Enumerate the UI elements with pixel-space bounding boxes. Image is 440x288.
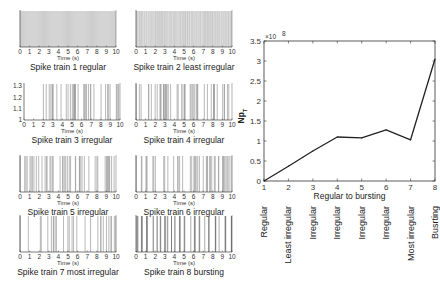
raster-panel-8: 012345678910Time (s)Spike train 8 bursti… — [134, 215, 236, 277]
x-tick-label: 2 — [153, 193, 157, 200]
x-tick-label: 0 — [134, 121, 138, 128]
raster-panel-2: 012345678910Time (s)Spike train 2 least … — [133, 10, 236, 72]
y-tick-label: 1.3 — [13, 82, 22, 89]
y-tick-label: 1.1 — [13, 105, 22, 112]
panel-caption: Spike train 3 irregular — [32, 135, 113, 145]
y-tick-label: 3.5 — [250, 37, 262, 46]
y-tick-label: 1.2 — [13, 94, 22, 101]
x-tick-label: 10 — [228, 253, 236, 260]
x-tick-label: 5 — [182, 121, 186, 128]
data-point — [410, 139, 411, 140]
category-label: Least irregular — [283, 206, 293, 264]
x-tick-label: 9 — [221, 121, 225, 128]
x-tick-label: 0 — [18, 193, 22, 200]
x-tick-label: 2 — [37, 193, 41, 200]
x-tick-label: 5 — [182, 48, 186, 55]
x-tick-label: 8 — [211, 253, 215, 260]
panel-caption: Spike train 7 most irregular — [17, 267, 119, 277]
x-tick-label: 6 — [76, 48, 80, 55]
x-axis-title: Time (s) — [61, 128, 83, 134]
x-tick-label: 2 — [37, 253, 41, 260]
x-tick-label: 1 — [262, 183, 267, 192]
y-tick-label: 2 — [257, 97, 262, 106]
x-tick-label: 3 — [51, 121, 55, 128]
x-tick-label: 9 — [109, 121, 113, 128]
x-tick-label: 0 — [134, 253, 138, 260]
x-tick-label: 4 — [173, 193, 177, 200]
y-tick-label: 1.5 — [250, 117, 262, 126]
x-tick-label: 9 — [221, 253, 225, 260]
x-tick-label: 5 — [66, 193, 70, 200]
y-axis-title-subscript: T — [242, 108, 248, 112]
x-tick-label: 8 — [95, 48, 99, 55]
y-tick-label: 0.5 — [250, 157, 262, 166]
panel-caption: Spike train 1 regular — [30, 62, 106, 72]
x-tick-label: 8 — [95, 193, 99, 200]
category-label: Irregular — [332, 206, 342, 240]
x-tick-label: 10 — [112, 193, 120, 200]
x-tick-label: 3 — [163, 121, 167, 128]
x-tick-label: 8 — [99, 121, 103, 128]
x-tick-label: 6 — [76, 193, 80, 200]
spike-group — [137, 216, 232, 252]
x-tick-label: 5 — [70, 121, 74, 128]
x-tick-label: 2 — [286, 183, 291, 192]
x-axis-title: Regular to bursting — [314, 191, 386, 201]
x-tick-label: 1 — [28, 253, 32, 260]
x-tick-label: 7 — [201, 193, 205, 200]
x-axis-title: Time (s) — [173, 260, 195, 266]
x-tick-label: 1 — [144, 48, 148, 55]
x-tick-label: 8 — [211, 48, 215, 55]
x-tick-label: 10 — [228, 48, 236, 55]
spike-group — [136, 156, 232, 192]
x-axis-title: Time (s) — [173, 128, 195, 134]
x-tick-label: 4 — [173, 48, 177, 55]
x-tick-label: 3 — [163, 253, 167, 260]
panel-caption: Spike train 8 bursting — [144, 267, 224, 277]
y-tick-label: 1 — [257, 137, 262, 146]
x-tick-label: 3 — [47, 193, 51, 200]
x-tick-label: 8 — [211, 193, 215, 200]
x-tick-label: 8 — [95, 253, 99, 260]
x-tick-label: 2 — [41, 121, 45, 128]
x-tick-label: 4 — [173, 121, 177, 128]
y-axis-title: NpT — [236, 108, 248, 123]
raster-panel-3: 01234567891011.11.21.3Time (s)Spike trai… — [13, 82, 124, 145]
spike-group — [137, 11, 232, 47]
x-tick-label: 9 — [221, 193, 225, 200]
x-tick-label: 5 — [182, 253, 186, 260]
x-tick-label: 7 — [201, 121, 205, 128]
x-tick-label: 7 — [85, 253, 89, 260]
x-tick-label: 8 — [433, 183, 438, 192]
x-tick-label: 5 — [66, 48, 70, 55]
x-tick-label: 9 — [221, 48, 225, 55]
x-axis-title: Time (s) — [173, 200, 195, 206]
x-tick-label: 10 — [228, 193, 236, 200]
x-tick-label: 9 — [105, 253, 109, 260]
x-tick-label: 0 — [134, 193, 138, 200]
x-tick-label: 6 — [192, 193, 196, 200]
y-multiplier-exponent: 8 — [282, 30, 286, 37]
x-tick-label: 4 — [57, 48, 61, 55]
x-tick-label: 7 — [85, 193, 89, 200]
data-point — [361, 137, 362, 138]
x-tick-label: 7 — [408, 183, 413, 192]
line-chart: 00.511.522.533.512345678×108Regular to b… — [236, 30, 440, 264]
x-axis-title: Time (s) — [173, 55, 195, 61]
raster-panel-6: 012345678910Time (s)Spike train 6 irregu… — [134, 155, 236, 217]
x-tick-label: 3 — [47, 253, 51, 260]
data-point — [288, 166, 289, 167]
x-tick-label: 6 — [80, 121, 84, 128]
x-tick-label: 3 — [163, 193, 167, 200]
y-multiplier-label: ×10 — [265, 33, 276, 40]
y-axis-title-main: Np — [236, 112, 246, 123]
x-tick-label: 6 — [192, 253, 196, 260]
x-tick-label: 6 — [192, 48, 196, 55]
x-tick-label: 0 — [22, 121, 26, 128]
x-tick-label: 10 — [116, 121, 124, 128]
x-tick-label: 10 — [228, 121, 236, 128]
x-axis-title: Time (s) — [57, 200, 79, 206]
x-tick-label: 1 — [144, 193, 148, 200]
y-tick-label: 1 — [18, 116, 22, 123]
x-tick-label: 4 — [61, 121, 65, 128]
